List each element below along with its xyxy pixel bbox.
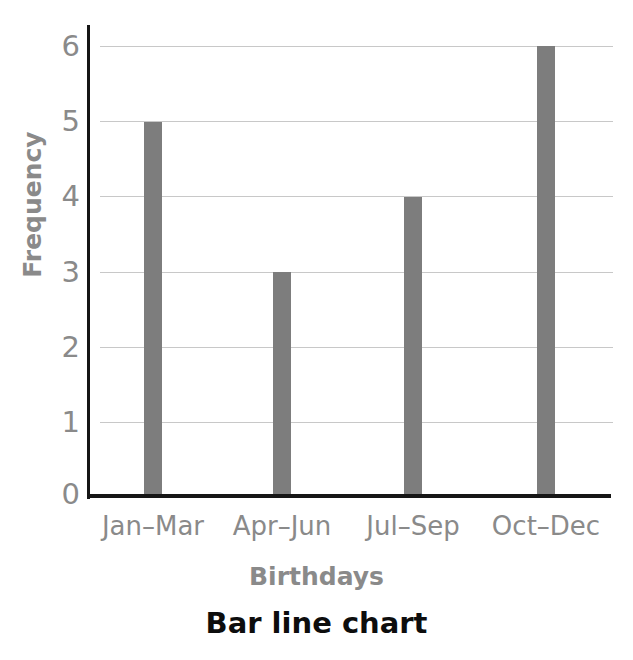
x-tick-label-jul-sep: Jul–Sep — [366, 511, 459, 541]
x-tick-label-oct-dec: Oct–Dec — [492, 511, 600, 541]
bar-apr-jun — [273, 272, 291, 498]
y-tick-label-6: 6 — [40, 32, 80, 61]
x-axis-title: Birthdays — [0, 562, 633, 591]
bar-oct-dec — [537, 46, 555, 498]
bar-line-chart-figure: 6 5 4 3 2 1 0 Jan–Mar Apr–Jun Jul–Sep Oc… — [0, 0, 633, 660]
x-tick-label-apr-jun: Apr–Jun — [233, 511, 332, 541]
x-tick-label-jan-mar: Jan–Mar — [102, 511, 204, 541]
bar-jul-sep — [404, 197, 422, 498]
bar-jan-mar — [144, 122, 162, 498]
y-tick-label-2: 2 — [40, 333, 80, 362]
y-axis-spine — [87, 25, 90, 499]
plot-area — [87, 25, 613, 498]
y-axis-title: Frequency — [18, 105, 47, 305]
y-tick-label-group: 6 5 4 3 2 1 0 — [22, 0, 80, 660]
y-tick-label-1: 1 — [40, 408, 80, 437]
y-tick-label-0: 0 — [40, 480, 80, 509]
x-axis-spine — [87, 494, 611, 498]
chart-title: Bar line chart — [0, 606, 633, 640]
